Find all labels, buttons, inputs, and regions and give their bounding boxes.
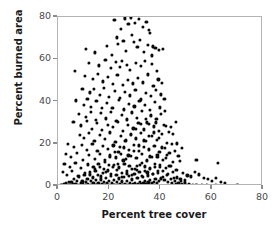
data-point [154,162,157,165]
data-point [158,48,161,51]
data-point [114,156,117,159]
x-tick-mark [261,185,263,189]
data-point [79,166,82,169]
data-point [99,112,102,115]
data-point [73,70,76,73]
data-point [123,163,126,166]
data-point [96,72,99,75]
data-point [63,162,66,165]
data-points-layer [58,17,261,184]
data-point [127,123,130,126]
data-point [108,95,111,98]
x-tick-label: 40 [153,191,165,202]
data-point [86,148,89,151]
data-point [120,113,123,116]
data-point [98,153,101,156]
y-tick-label: 60 [39,51,51,65]
data-point [124,49,127,52]
data-point [92,88,95,91]
data-point [157,78,160,81]
data-point [165,141,168,144]
data-point [148,108,151,111]
data-point [135,61,138,64]
data-point [155,69,158,72]
data-point [95,121,98,124]
data-point [130,154,133,157]
data-point [103,138,106,141]
x-axis: Percent tree cover 020406080 [0,185,280,231]
data-point [112,144,115,147]
data-point [169,125,172,128]
data-point [223,181,226,184]
data-point [154,88,157,91]
data-point [167,131,170,134]
data-point [117,42,120,45]
data-point [174,120,177,123]
data-point [111,83,114,86]
data-point [107,147,110,150]
data-point [87,153,90,156]
data-point [67,142,70,145]
data-point [150,54,153,57]
data-point [155,117,158,120]
data-point [140,110,143,113]
data-point [141,25,144,28]
data-point [89,110,92,113]
data-point [206,178,209,181]
data-point [117,98,120,101]
data-point [140,152,143,155]
data-point [82,158,85,161]
data-point [132,40,135,43]
data-point [76,152,79,155]
data-point [107,164,110,167]
data-point [163,146,166,149]
data-point [119,153,122,156]
x-tick-mark [108,185,110,189]
data-point [72,121,75,124]
data-point [176,142,179,145]
data-point [97,64,100,67]
data-point [158,106,161,109]
data-point [125,157,128,160]
data-point [159,113,162,116]
data-point [146,43,149,46]
data-point [136,177,139,180]
data-point [181,171,184,174]
data-point [152,131,155,134]
data-point [78,133,81,136]
data-point [130,111,133,114]
data-point [88,91,91,94]
data-point [132,149,135,152]
data-point [159,93,162,96]
data-point [83,136,86,139]
data-point [145,159,148,162]
data-point [150,114,153,117]
data-point [219,180,222,183]
data-point [98,165,101,168]
data-point [202,176,205,179]
data-point [90,105,93,108]
y-tick-label: 80 [39,9,51,23]
data-point [123,17,126,20]
data-point [83,75,86,78]
data-point [80,143,83,146]
data-point [91,77,94,80]
data-point [70,170,73,173]
data-point [143,103,146,106]
data-point [111,126,114,129]
data-point [104,170,107,173]
data-point [195,159,198,162]
data-point [164,167,167,170]
data-point [140,65,143,68]
data-point [190,175,193,178]
data-point [217,161,220,164]
data-point [101,80,104,83]
data-point [93,157,96,160]
data-point [149,95,152,98]
data-point [101,144,104,147]
data-point [154,47,157,50]
data-point [129,17,132,19]
data-point [163,178,166,181]
data-point [170,164,173,167]
data-point [110,53,113,56]
